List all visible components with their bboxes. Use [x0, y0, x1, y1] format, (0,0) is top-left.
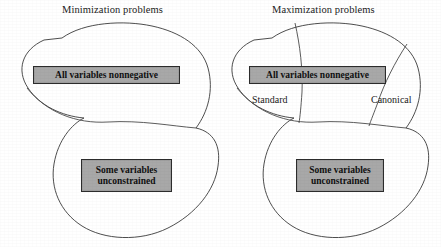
maximization-all-variables-nonnegative-box: All variables nonnegative — [249, 66, 386, 84]
maximization-canonical-divider — [369, 44, 407, 126]
minimization-some-variables-line1: Some variables — [82, 165, 171, 176]
minimization-all-variables-nonnegative-label: All variables nonnegative — [34, 70, 179, 81]
minimization-waist-divider — [27, 88, 196, 128]
maximization-canonical-region-label: Canonical — [371, 94, 412, 105]
maximization-panel-title: Maximization problems — [272, 4, 375, 15]
minimization-blob-outline — [22, 23, 219, 238]
maximization-blob-outline — [232, 23, 429, 238]
minimization-some-variables-unconstrained-box: Some variables unconstrained — [81, 159, 172, 192]
minimization-panel-title: Minimization problems — [62, 4, 163, 15]
maximization-standard-region-label: Standard — [252, 94, 288, 105]
blob-outlines-svg — [0, 0, 441, 247]
linear-programming-problem-classes-figure: Minimization problems All variables nonn… — [0, 0, 441, 247]
maximization-all-variables-nonnegative-label: All variables nonnegative — [250, 70, 385, 81]
minimization-some-variables-line2: unconstrained — [82, 176, 171, 187]
maximization-some-variables-line1: Some variables — [297, 165, 383, 176]
minimization-all-variables-nonnegative-box: All variables nonnegative — [33, 66, 180, 84]
maximization-some-variables-line2: unconstrained — [297, 176, 383, 187]
maximization-some-variables-unconstrained-box: Some variables unconstrained — [296, 159, 384, 192]
